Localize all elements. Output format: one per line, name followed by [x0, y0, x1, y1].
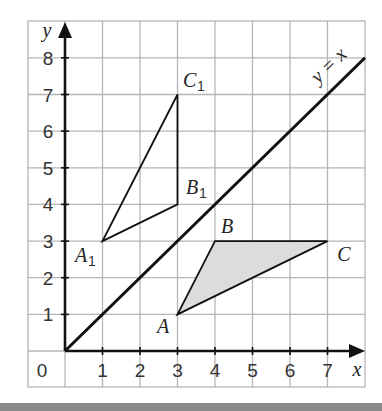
axes [65, 36, 352, 351]
y-tick-label: 8 [43, 48, 54, 69]
vertex-label-b: B [221, 215, 233, 237]
vertex-subscript: 1 [88, 253, 96, 269]
bottom-border-bar [0, 403, 382, 411]
y-tick-label: 7 [43, 85, 54, 106]
vertex-letter: A [73, 244, 88, 266]
vertex-label-c1: C 1 [183, 69, 205, 94]
x-tick-label: 7 [322, 360, 333, 381]
origin-label: 0 [37, 360, 48, 381]
tick-marks [61, 58, 328, 355]
y-tick-label: 3 [43, 231, 54, 252]
x-tick-label: 3 [172, 360, 183, 381]
y-tick-label: 6 [43, 121, 54, 142]
y-axis-arrow-icon [58, 22, 72, 38]
x-axis-arrow-icon [349, 344, 365, 358]
y-tick-label: 5 [43, 158, 54, 179]
vertex-label-a: A [155, 315, 170, 337]
x-tick-label: 5 [247, 360, 258, 381]
y-tick-label: 1 [43, 304, 54, 325]
y-axis-label: y [41, 19, 52, 42]
vertex-letter: B [186, 176, 198, 198]
y-tick-label: 4 [43, 194, 54, 215]
y-tick-label: 2 [43, 268, 54, 289]
vertex-label-a1: A 1 [73, 244, 96, 269]
vertex-subscript: 1 [197, 78, 205, 94]
vertex-letter: C [183, 69, 197, 91]
vertex-label-c: C [337, 243, 351, 265]
x-tick-label: 4 [210, 360, 221, 381]
x-tick-label: 6 [285, 360, 296, 381]
x-tick-label: 1 [97, 360, 108, 381]
vertex-label-b1: B 1 [186, 176, 207, 201]
x-tick-label: 2 [135, 360, 146, 381]
coordinate-grid-figure: 0 1 2 3 4 5 6 7 x 1 2 3 4 5 6 7 8 y A B … [0, 0, 382, 411]
vertex-subscript: 1 [199, 185, 207, 201]
x-axis-label: x [352, 358, 362, 380]
